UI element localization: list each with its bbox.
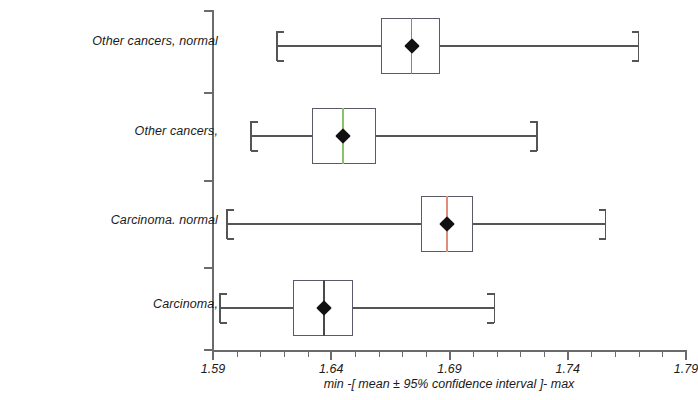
whisker-cap-serif: [251, 150, 258, 152]
x-axis-tick-minor: [379, 351, 380, 357]
whisker-cap-serif: [251, 121, 258, 123]
whisker-cap-serif: [277, 60, 284, 62]
x-axis-tick-label: 1.74: [556, 362, 580, 376]
x-axis-tick-label: 1.59: [201, 362, 225, 376]
x-axis-tick-minor: [402, 351, 403, 357]
x-axis-tick-minor: [591, 351, 592, 357]
whisker-left: [220, 307, 293, 309]
whisker-cap-min: [226, 209, 228, 239]
box-plot-figure: Other cancers, normal Other cancers, Car…: [0, 0, 698, 400]
x-axis-tick-minor: [615, 351, 616, 357]
x-axis-tick-minor: [639, 351, 640, 357]
whisker-cap-serif: [599, 238, 606, 240]
whisker-cap-serif: [487, 322, 494, 324]
x-axis-tick-minor: [237, 351, 238, 357]
whisker-cap-serif: [530, 121, 537, 123]
x-axis-title: min -[ mean ± 95% confidence interval ]-…: [324, 377, 575, 391]
whisker-cap-serif: [227, 209, 234, 211]
x-axis-tick-label: 1.69: [437, 362, 461, 376]
whisker-cap-serif: [599, 209, 606, 211]
whisker-cap-max: [638, 31, 640, 61]
x-axis-tick-major: [567, 351, 569, 360]
x-axis-tick-label: 1.79: [674, 362, 698, 376]
whisker-right: [353, 307, 495, 309]
y-axis-tick: [204, 92, 213, 94]
x-axis-tick-minor: [426, 351, 427, 357]
whisker-cap-min: [250, 121, 252, 151]
x-axis-tick-minor: [473, 351, 474, 357]
x-axis-tick-minor: [308, 351, 309, 357]
whisker-right: [376, 135, 537, 137]
y-axis-tick: [204, 10, 213, 12]
category-label-carcinoma-normal: Carcinoma. normal: [111, 213, 218, 227]
whisker-cap-serif: [632, 60, 639, 62]
x-axis-tick-minor: [544, 351, 545, 357]
x-axis-tick-minor: [662, 351, 663, 357]
x-axis-tick-minor: [355, 351, 356, 357]
whisker-cap-serif: [530, 150, 537, 152]
x-axis-tick-minor: [284, 351, 285, 357]
whisker-right: [440, 45, 639, 47]
x-axis-tick-label: 1.64: [319, 362, 343, 376]
category-label-other-cancers-normal: Other cancers, normal: [92, 34, 218, 48]
whisker-left: [227, 223, 421, 225]
whisker-cap-serif: [227, 238, 234, 240]
y-axis-tick: [204, 180, 213, 182]
whisker-cap-max: [605, 209, 607, 239]
whisker-cap-min: [276, 31, 278, 61]
whisker-cap-serif: [220, 293, 227, 295]
whisker-right: [473, 223, 605, 225]
category-label-carcinoma: Carcinoma,: [153, 297, 218, 311]
x-axis-tick-major: [212, 351, 214, 360]
x-axis-tick-major: [449, 351, 451, 360]
x-axis-tick-minor: [497, 351, 498, 357]
x-axis-tick-major: [330, 351, 332, 360]
whisker-left: [277, 45, 381, 47]
x-axis-tick-minor: [520, 351, 521, 357]
whisker-cap-serif: [487, 293, 494, 295]
category-label-other-cancers: Other cancers,: [135, 124, 218, 138]
whisker-cap-min: [219, 293, 221, 323]
whisker-cap-serif: [220, 322, 227, 324]
whisker-left: [251, 135, 312, 137]
whisker-cap-max: [536, 121, 538, 151]
x-axis-tick-major: [685, 351, 687, 360]
whisker-cap-serif: [632, 31, 639, 33]
y-axis-tick: [204, 267, 213, 269]
x-axis-tick-minor: [260, 351, 261, 357]
whisker-cap-max: [494, 293, 496, 323]
whisker-cap-serif: [277, 31, 284, 33]
